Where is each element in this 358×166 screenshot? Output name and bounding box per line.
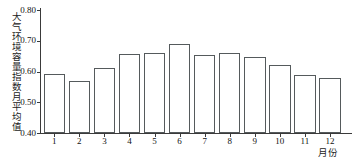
bar — [244, 57, 266, 133]
y-tick-mark — [37, 10, 41, 11]
y-tick-mark — [37, 102, 41, 103]
bar — [219, 53, 241, 133]
bar — [319, 78, 341, 133]
plot-area — [40, 8, 352, 134]
bar — [119, 54, 141, 133]
y-tick-label: 0.60 — [8, 67, 36, 76]
x-axis-title: 月份 — [318, 148, 338, 158]
y-tick-label: 0.70 — [8, 36, 36, 45]
y-axis-tick-labels: 0.400.500.600.700.80 — [8, 0, 36, 166]
bar — [69, 81, 91, 133]
bar — [194, 55, 216, 133]
x-axis-tick-labels: 123456789101112 — [40, 136, 352, 150]
bar — [144, 53, 166, 133]
bar — [94, 68, 116, 133]
bar — [169, 44, 191, 133]
bar — [294, 75, 316, 133]
bar-chart: 大气环境容量指数月平均值 0.400.500.600.700.80 123456… — [0, 0, 358, 166]
bar — [269, 65, 291, 133]
y-tick-label: 0.80 — [8, 6, 36, 15]
y-tick-mark — [37, 133, 41, 134]
bar — [44, 74, 66, 133]
y-tick-mark — [37, 72, 41, 73]
x-tick-label: 12 — [315, 136, 345, 147]
y-tick-label: 0.40 — [8, 129, 36, 138]
y-tick-label: 0.50 — [8, 98, 36, 107]
y-tick-mark — [37, 41, 41, 42]
